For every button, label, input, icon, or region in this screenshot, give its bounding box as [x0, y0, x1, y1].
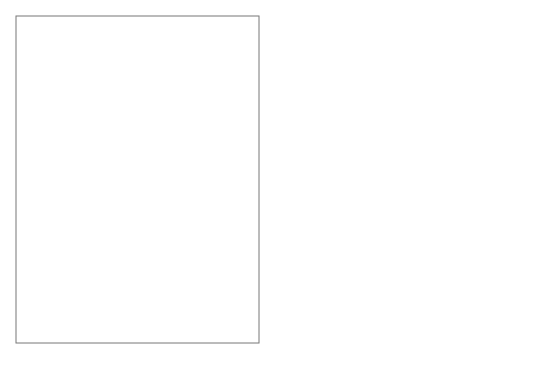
- map-frame: [16, 16, 259, 343]
- us-map: [0, 0, 543, 365]
